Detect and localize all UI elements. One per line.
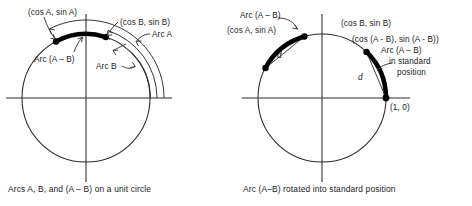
left-leader-cos-b [107,22,118,35]
left-leader-secondary-arrow [113,50,118,55]
unit-circle-arcs-figure: (cos A, sin A) (cos B, sin B) Arc A Arc … [0,0,472,206]
left-caption: Arcs A, B, and (A – B) on a unit circle [8,184,151,194]
right-label-standard-1: Arc (A – B) [381,46,422,55]
right-label-d-upper: d [277,50,282,60]
right-label-one-zero: (1, 0) [390,103,410,112]
right-panel: Arc (A – B) (cos A, sin A) (cos B, sin B… [227,11,439,194]
left-leader-arc-b-arrow [130,62,135,67]
right-point-one-zero [383,95,390,102]
right-point-cos-amb-sin-amb [363,49,369,55]
left-label-arc-a-minus-b: Arc (A – B) [34,55,75,64]
right-point-cos-a-sin-a [262,65,268,71]
right-label-cos-b-sin-b: (cos B, sin B) [341,19,391,28]
left-panel: (cos A, sin A) (cos B, sin B) Arc A Arc … [6,8,173,194]
left-label-cos-b-sin-b: (cos B, sin B) [120,18,170,27]
right-leader-arc-a-minus-b-arrow [293,25,298,30]
right-label-standard-3: position [397,68,426,77]
left-leader-secondary [113,44,126,51]
right-label-cos-amb: (cos (A - B), sin (A - B)) [352,35,439,44]
left-arc-guide [132,53,151,98]
figure-canvas: (cos A, sin A) (cos B, sin B) Arc A Arc … [0,0,472,206]
right-chord-upper [266,37,305,69]
left-label-arc-b: Arc B [96,62,117,71]
left-label-cos-a-sin-a: (cos A, sin A) [28,8,77,17]
right-label-d-standard: d [358,72,363,82]
right-leader-arc-a-minus-b [278,18,298,29]
right-label-cos-a-sin-a: (cos A, sin A) [227,26,276,35]
left-label-arc-a: Arc A [152,30,173,39]
right-label-standard-2: in standard [389,57,431,66]
right-label-arc-a-minus-b: Arc (A – B) [240,11,281,20]
right-point-cos-b-sin-b [301,33,307,39]
left-leader-arc-a-minus-b [74,37,83,52]
right-caption: Arc (A–B) rotated into standard position [243,184,396,194]
